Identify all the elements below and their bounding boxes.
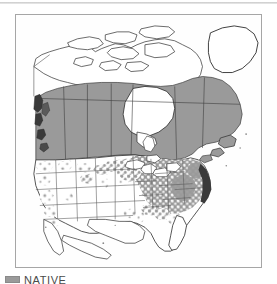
map-canvas bbox=[16, 15, 261, 267]
page-top-rule bbox=[0, 2, 277, 4]
legend-label-native: NATIVE bbox=[24, 275, 67, 284]
legend-swatch-native bbox=[5, 276, 20, 283]
map-legend: NATIVE bbox=[5, 275, 67, 284]
map-frame bbox=[15, 14, 262, 268]
